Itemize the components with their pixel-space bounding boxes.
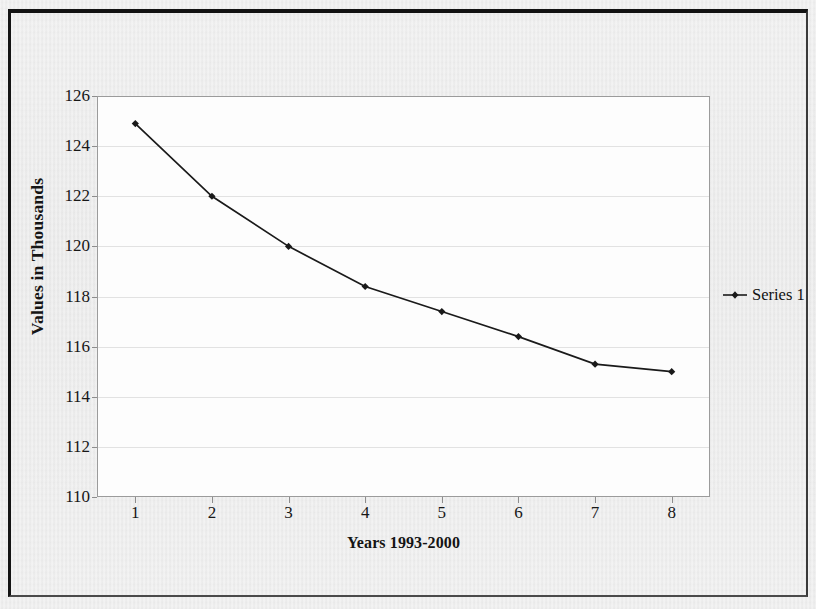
chart-legend: Series 1 [722, 285, 805, 305]
series-1-line [0, 0, 816, 609]
x-axis-title: Years 1993-2000 [97, 534, 710, 552]
data-point-marker [668, 368, 675, 375]
data-point-marker [515, 333, 522, 340]
chart-page: Values in Thousands 11011211411611812012… [0, 0, 816, 609]
data-point-marker [362, 283, 369, 290]
data-point-marker [591, 361, 598, 368]
legend-diamond-line-icon [722, 289, 748, 301]
line-chart: Values in Thousands 11011211411611812012… [0, 0, 816, 609]
data-point-marker [438, 308, 445, 315]
legend-entry-label: Series 1 [752, 285, 805, 305]
series-line-path [135, 124, 671, 372]
